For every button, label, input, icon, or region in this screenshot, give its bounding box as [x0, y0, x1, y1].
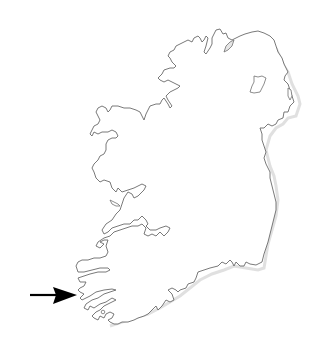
ireland-map: [0, 0, 327, 341]
ireland-coastline: [76, 29, 294, 324]
arrow-head-icon: [53, 287, 77, 304]
west-lake: [110, 200, 120, 206]
kerry-island: [101, 310, 105, 314]
